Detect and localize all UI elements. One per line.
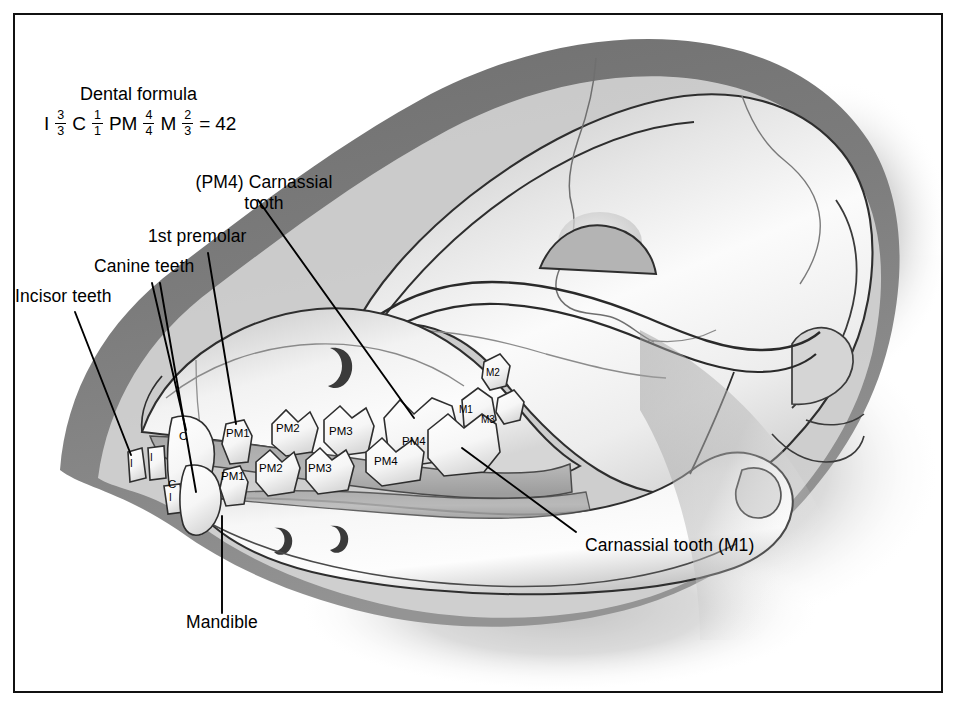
tooth-label-pm4-upper: PM4 <box>402 435 426 447</box>
formula-fraction-m: 2 3 <box>182 109 193 137</box>
tooth-label-i-upper-b: I <box>150 452 153 463</box>
callout-pm4-carnassial-line1: (PM4) Carnassial <box>166 172 362 193</box>
formula-fraction-c: 1 1 <box>92 109 103 137</box>
tooth-label-pm1-upper: PM1 <box>226 427 250 439</box>
tooth-label-i-upper-a: I <box>130 458 133 469</box>
formula-symbol-m: M <box>160 113 176 135</box>
callout-canine-teeth: Canine teeth <box>94 256 194 277</box>
tooth-label-pm2-upper: PM2 <box>276 422 300 434</box>
dental-formula-expression: I 3 3 C 1 1 PM 4 4 M 2 3 = 42 <box>44 110 236 138</box>
tooth-label-pm2-lower: PM2 <box>259 462 283 474</box>
callout-pm4-carnassial: (PM4) Carnassial tooth <box>166 172 362 213</box>
tooth-label-m3: M3 <box>481 414 495 425</box>
tooth-label-m1: M1 <box>459 404 473 415</box>
formula-fraction-pm: 4 4 <box>143 109 154 137</box>
formula-symbol-c: C <box>72 113 86 135</box>
tooth-label-pm1-lower: PM1 <box>221 470 245 482</box>
tooth-label-pm3-lower: PM3 <box>308 462 332 474</box>
formula-symbol-pm: PM <box>109 113 138 135</box>
callout-incisor-teeth: Incisor teeth <box>15 286 112 307</box>
formula-pm-upper: 4 <box>143 109 154 123</box>
tooth-label-pm3-upper: PM3 <box>329 425 353 437</box>
formula-i-upper: 3 <box>55 109 66 123</box>
formula-c-upper: 1 <box>92 109 103 123</box>
callout-mandible: Mandible <box>186 612 258 633</box>
formula-m-lower: 3 <box>182 123 193 138</box>
formula-c-lower: 1 <box>92 123 103 138</box>
skull-illustration <box>0 0 956 706</box>
formula-equals: = <box>199 113 210 135</box>
dental-formula-title: Dental formula <box>80 84 197 105</box>
callout-pm4-carnassial-line2: tooth <box>166 193 362 214</box>
formula-total: 42 <box>215 113 236 135</box>
tooth-label-c-lower: C <box>168 478 176 490</box>
formula-symbol-i: I <box>44 113 49 135</box>
tooth-label-pm4-lower: PM4 <box>374 455 398 467</box>
tooth-label-m2: M2 <box>486 367 500 378</box>
formula-pm-lower: 4 <box>143 123 154 138</box>
tooth-label-c-upper: C <box>179 430 187 442</box>
figure-canvas: Dental formula I 3 3 C 1 1 PM 4 4 M 2 3 … <box>0 0 956 706</box>
formula-m-upper: 2 <box>182 109 193 123</box>
callout-carnassial-m1: Carnassial tooth (M1) <box>585 535 754 556</box>
formula-i-lower: 3 <box>55 123 66 138</box>
tooth-label-i-lower: I <box>169 492 172 503</box>
formula-fraction-i: 3 3 <box>55 109 66 137</box>
callout-first-premolar: 1st premolar <box>148 226 246 247</box>
